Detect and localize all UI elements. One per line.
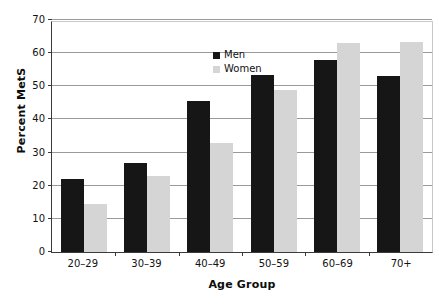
bar-group xyxy=(369,22,432,252)
y-tick-label: 60 xyxy=(32,47,45,58)
y-axis-title: Percent MetS xyxy=(15,46,28,176)
bar-men xyxy=(251,75,274,252)
y-tick-mark xyxy=(48,19,52,20)
y-tick-label: 70 xyxy=(32,14,45,25)
x-tick-label: 70+ xyxy=(369,258,433,269)
y-tick-label: 30 xyxy=(32,146,45,157)
gridline: 70 xyxy=(52,19,432,20)
x-tick-label: 40–49 xyxy=(178,258,242,269)
x-tick-label: 20–29 xyxy=(51,258,115,269)
legend-item-label: Men xyxy=(224,49,245,61)
bar-women xyxy=(210,143,233,252)
bar-men xyxy=(124,163,147,252)
bar-men xyxy=(187,101,210,252)
bar-men xyxy=(314,60,337,252)
bar-group xyxy=(52,22,115,252)
gray-square-swatch xyxy=(213,66,220,73)
bar-women xyxy=(400,42,423,252)
bar-men xyxy=(377,76,400,252)
legend-item-label: Women xyxy=(224,63,262,75)
x-axis-title: Age Group xyxy=(51,278,433,291)
y-tick-label: 10 xyxy=(32,212,45,223)
bar-women xyxy=(337,43,360,252)
y-tick-label: 50 xyxy=(32,80,45,91)
bar-men xyxy=(61,179,84,252)
legend-item-women: Women xyxy=(213,63,262,75)
black-square-swatch xyxy=(213,52,220,59)
x-axis-tick-labels: 20–2930–3940–4950–5960–6970+ xyxy=(51,258,433,269)
y-tick-label: 40 xyxy=(32,113,45,124)
bar-women xyxy=(274,90,297,252)
legend-item-men: Men xyxy=(213,49,262,61)
chart-legend: MenWomen xyxy=(213,49,262,77)
y-tick-label: 0 xyxy=(39,246,45,257)
bar-chart: Percent MetS 010203040506070 20–2930–394… xyxy=(0,0,439,307)
bar-women xyxy=(147,176,170,252)
x-tick-label: 30–39 xyxy=(115,258,179,269)
x-tick-label: 60–69 xyxy=(306,258,370,269)
y-tick-label: 20 xyxy=(32,179,45,190)
bar-group xyxy=(115,22,178,252)
bar-group xyxy=(305,22,368,252)
x-tick-label: 50–59 xyxy=(242,258,306,269)
bar-women xyxy=(84,204,107,252)
